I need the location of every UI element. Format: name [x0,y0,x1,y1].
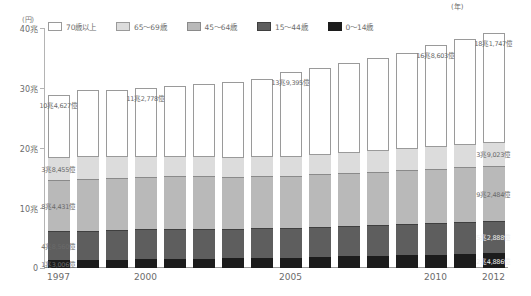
bar-segment-70歳以上 [251,79,273,156]
y-axis-tick-label: 40兆 [20,23,38,34]
bar-segment-15〜44歳 [483,221,505,253]
bar-segment-45〜64歳 [425,169,447,224]
bar-segment-65〜69歳 [164,156,186,176]
bar-2008 [367,58,389,268]
bar-segment-65〜69歳 [77,156,99,179]
bar-segment-15〜44歳 [338,226,360,256]
bar-segment-70歳以上 [280,72,302,156]
bar-segment-15〜44歳 [222,229,244,259]
bar-segment-15〜44歳 [280,228,302,258]
bar-segment-0〜14歳 [222,258,244,268]
bar-segment-45〜64歳 [106,178,128,230]
bar-segment-0〜14歳 [483,253,505,268]
bar-segment-65〜69歳 [454,144,476,167]
bar-segment-0〜14歳 [338,256,360,268]
bar-segment-70歳以上 [135,88,157,156]
bar-segment-0〜14歳 [425,255,447,269]
bar-segment-65〜69歳 [251,156,273,176]
y-axis-tick-label: 10兆 [20,203,38,214]
bar-segment-70歳以上 [425,45,447,146]
bar-segment-70歳以上 [193,84,215,156]
bar-segment-70歳以上 [309,68,331,154]
bar-segment-15〜44歳 [135,229,157,259]
bar-segment-45〜64歳 [483,166,505,222]
x-axis-tick-label: 2012 [482,272,505,282]
bar-segment-15〜44歳 [396,224,418,255]
bar-segment-45〜64歳 [338,173,360,226]
bar-segment-65〜69歳 [338,152,360,173]
bar-segment-70歳以上 [164,86,186,156]
bar-segment-65〜69歳 [396,148,418,170]
bar-2005 [280,72,302,268]
bar-segment-45〜64歳 [280,176,302,228]
bar-segment-70歳以上 [367,58,389,150]
bar-segment-70歳以上 [454,39,476,144]
bar-segment-45〜64歳 [454,167,476,222]
bar-segment-15〜44歳 [367,225,389,256]
bar-segment-15〜44歳 [106,230,128,260]
bar-segment-70歳以上 [106,90,128,157]
bar-segment-15〜44歳 [425,223,447,254]
bar-segment-0〜14歳 [251,258,273,268]
bar-segment-0〜14歳 [193,259,215,268]
bar-segment-15〜44歳 [251,228,273,258]
stacked-bar-chart: (円) 70歳以上65〜69歳45〜64歳15〜44歳0〜14歳 010兆20兆… [0,0,531,296]
y-axis-tick-label: 0 [33,264,38,273]
bar-segment-45〜64歳 [396,170,418,224]
bar-segment-65〜69歳 [135,156,157,177]
bar-segment-15〜44歳 [309,227,331,257]
bar-segment-45〜64歳 [164,176,186,229]
bar-segment-0〜14歳 [106,260,128,268]
bar-2011 [454,39,476,268]
bar-2012 [483,33,505,268]
x-axis-tick-label: 2010 [424,272,447,282]
bar-segment-15〜44歳 [454,222,476,254]
bar-segment-65〜69歳 [193,156,215,176]
bar-segment-0〜14歳 [135,259,157,268]
y-axis-tick [40,268,45,269]
bar-2003 [222,82,244,268]
bar-segment-70歳以上 [483,33,505,142]
bar-segment-45〜64歳 [193,176,215,229]
bar-segment-0〜14歳 [48,260,70,268]
x-axis-unit-label: (年) [451,1,463,11]
bar-segment-0〜14歳 [309,257,331,268]
y-axis-tick-label: 20兆 [20,143,38,154]
bar-segment-15〜44歳 [48,231,70,260]
x-axis-tick-label: 1997 [47,272,70,282]
bar-segment-65〜69歳 [106,156,128,178]
x-axis-labels: 19972000200520102012 [44,272,508,292]
bar-segment-15〜44歳 [164,229,186,259]
bar-2009 [396,53,418,268]
bar-segment-65〜69歳 [425,146,447,169]
bar-segment-65〜69歳 [222,157,244,177]
bar-segment-45〜64歳 [251,176,273,228]
bar-segment-45〜64歳 [135,177,157,230]
bar-2004 [251,79,273,268]
bar-2002 [193,84,215,268]
bar-segment-45〜64歳 [222,177,244,229]
bar-segment-45〜64歳 [77,179,99,231]
y-axis-tick-label: 30兆 [20,83,38,94]
bar-segment-0〜14歳 [396,255,418,268]
bar-segment-70歳以上 [48,95,70,158]
bar-segment-0〜14歳 [454,254,476,268]
bar-group [44,28,508,268]
bar-segment-70歳以上 [396,53,418,148]
bar-segment-45〜64歳 [309,174,331,227]
bar-segment-0〜14歳 [164,259,186,268]
bar-segment-65〜69歳 [309,154,331,174]
bar-segment-15〜44歳 [193,229,215,259]
x-axis-tick-label: 2000 [134,272,157,282]
bar-segment-70歳以上 [222,82,244,156]
bar-1997 [48,95,70,268]
bar-1998 [77,90,99,268]
bar-2006 [309,68,331,268]
bar-2010 [425,45,447,268]
bar-segment-65〜69歳 [367,150,389,172]
bar-segment-0〜14歳 [367,256,389,268]
bar-2000 [135,88,157,268]
bar-segment-65〜69歳 [48,157,70,180]
bar-2001 [164,86,186,268]
bar-segment-0〜14歳 [77,260,99,268]
